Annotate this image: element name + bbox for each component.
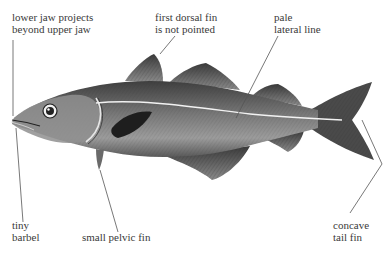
first-dorsal-fin bbox=[125, 54, 163, 82]
leader-dorsal-fin bbox=[160, 36, 175, 54]
label-barbel: tiny barbel bbox=[12, 219, 39, 243]
label-lower-jaw: lower jaw projects beyond upper jaw bbox=[12, 11, 93, 35]
fish-illustration bbox=[0, 0, 390, 254]
label-dorsal-fin: first dorsal fin is not pointed bbox=[155, 11, 217, 35]
leader-pelvic-fin bbox=[100, 170, 118, 232]
eye bbox=[43, 104, 57, 118]
fish-head bbox=[12, 95, 103, 144]
label-tail-fin: concave tail fin bbox=[333, 219, 369, 243]
fish-diagram: lower jaw projects beyond upper jaw firs… bbox=[0, 0, 390, 254]
pelvic-fin bbox=[96, 149, 104, 170]
label-lateral-line: pale lateral line bbox=[274, 11, 321, 35]
leader-barbel bbox=[16, 128, 23, 222]
label-pelvic-fin: small pelvic fin bbox=[82, 231, 150, 243]
tail-fin bbox=[310, 82, 374, 160]
